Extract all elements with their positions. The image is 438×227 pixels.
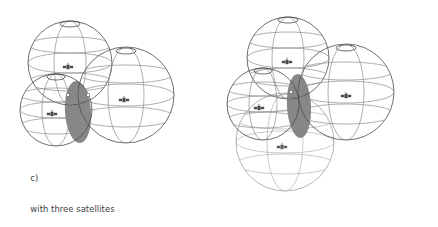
meridian-line <box>108 47 144 143</box>
satellite-icon-2 <box>119 96 129 102</box>
caption-marker: c) <box>30 173 38 183</box>
latitude-line <box>78 84 174 106</box>
sphere-top-left <box>247 17 329 99</box>
sphere-right <box>78 47 174 143</box>
satellite-icon-1 <box>282 58 292 64</box>
latitude-line <box>236 131 334 153</box>
caption-panel-c: c) with three satellites the receiver is… <box>14 163 131 227</box>
three-sphere-diagram <box>0 0 219 160</box>
caption-line: with three satellites <box>30 204 131 214</box>
latitude-line <box>247 32 329 48</box>
four-sphere-diagram <box>219 0 438 227</box>
polar-cap-ring <box>47 74 65 80</box>
intersection-point-upper <box>66 93 69 96</box>
latitude-line <box>28 53 112 73</box>
meridian-line <box>249 68 277 140</box>
latitude-line <box>298 62 394 80</box>
latitude-line <box>28 37 112 53</box>
panel-d-four-satellites: d) with four satel- lites, the receiver … <box>219 0 438 227</box>
polar-cap-ring <box>60 21 80 27</box>
gps-trilateration-figure: c) with three satellites the receiver is… <box>0 0 438 227</box>
latitude-line <box>78 107 174 127</box>
latitude-line <box>247 48 329 68</box>
intersection-point <box>289 90 292 93</box>
satellite-icon-2 <box>341 92 351 98</box>
panel-c-three-satellites: c) with three satellites the receiver is… <box>0 0 219 227</box>
sphere-outline <box>236 93 334 191</box>
satellite-icon-4 <box>277 143 287 149</box>
caption-body: with three satellites the receiver is at… <box>30 183 131 227</box>
satellite-icon-1 <box>63 63 73 69</box>
intersection-point-lower <box>86 93 89 96</box>
polar-cap-ring <box>278 17 298 23</box>
meridian-line <box>272 17 304 99</box>
latitude-line <box>78 65 174 83</box>
sphere-outline <box>78 47 174 143</box>
sphere-bottom-front <box>236 93 334 191</box>
latitude-line <box>298 104 394 124</box>
latitude-line <box>227 112 299 128</box>
latitude-line <box>236 154 334 174</box>
sphere-outline <box>247 17 329 99</box>
satellite-icon-3 <box>254 104 264 110</box>
satellite-icon-3 <box>47 110 57 116</box>
